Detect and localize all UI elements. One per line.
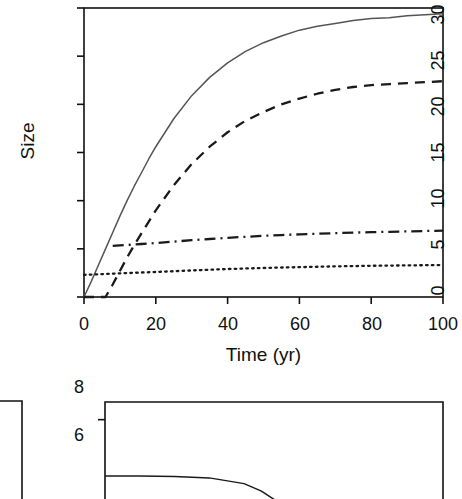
curve-dotted — [84, 265, 443, 275]
curve-dash-dot — [113, 231, 443, 246]
curve-solid — [84, 14, 443, 297]
curve-decline — [105, 476, 348, 499]
chart-panel-main: Size Time (yr) 0 5 10 15 20 25 30 0 20 4… — [0, 0, 455, 380]
plot-area-main — [0, 0, 455, 380]
curve-dashed — [84, 81, 443, 297]
chart-panel-lower: 6 8 — [0, 380, 455, 499]
plot-area-lower — [0, 380, 455, 499]
